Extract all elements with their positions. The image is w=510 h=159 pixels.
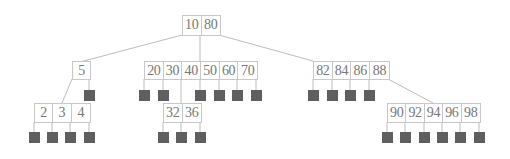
node-key: 86 xyxy=(351,62,370,79)
null-leaf xyxy=(419,132,430,143)
btree-node-2-4: 2 3 4 xyxy=(34,103,91,123)
null-leaf xyxy=(29,132,40,143)
node-key: 60 xyxy=(220,62,239,79)
null-leaf xyxy=(455,132,466,143)
btree-node-20-70: 20 30 40 50 60 70 xyxy=(144,61,258,80)
b-tree-diagram: 10 80 5 20 30 40 50 60 70 82 84 86 88 2 … xyxy=(0,0,510,159)
null-leaf xyxy=(232,90,243,101)
node-key: 20 xyxy=(145,62,164,79)
node-key: 2 xyxy=(35,104,53,122)
null-leaf xyxy=(65,132,76,143)
btree-node-32-36: 32 36 xyxy=(163,103,202,123)
node-key: 4 xyxy=(72,104,90,122)
null-leaf xyxy=(437,132,448,143)
null-leaf xyxy=(47,132,58,143)
node-key: 96 xyxy=(443,104,461,122)
node-key: 94 xyxy=(425,104,443,122)
node-key: 84 xyxy=(333,62,352,79)
node-key: 30 xyxy=(164,62,183,79)
null-leaf xyxy=(176,132,187,143)
null-leaf xyxy=(345,90,356,101)
node-key: 88 xyxy=(370,62,389,79)
node-key: 82 xyxy=(314,62,333,79)
null-leaf xyxy=(158,132,169,143)
null-leaf xyxy=(139,90,150,101)
null-leaf xyxy=(364,90,375,101)
node-key: 92 xyxy=(406,104,424,122)
node-key: 40 xyxy=(182,62,201,79)
node-key: 3 xyxy=(53,104,71,122)
null-leaf xyxy=(195,132,206,143)
btree-node-82-88: 82 84 86 88 xyxy=(313,61,390,80)
null-leaf xyxy=(195,90,206,101)
null-leaf xyxy=(84,90,95,101)
null-leaf xyxy=(84,132,95,143)
null-leaf xyxy=(214,90,225,101)
node-key: 50 xyxy=(201,62,220,79)
btree-node-root: 10 80 xyxy=(182,15,221,36)
node-key: 70 xyxy=(238,62,257,79)
null-leaf xyxy=(327,90,338,101)
btree-node-90-98: 90 92 94 96 98 xyxy=(387,103,481,123)
node-key: 98 xyxy=(462,104,480,122)
node-key: 10 xyxy=(183,16,202,35)
null-leaf xyxy=(382,132,393,143)
node-key: 32 xyxy=(164,104,183,122)
node-key: 80 xyxy=(202,16,221,35)
null-leaf xyxy=(308,90,319,101)
null-leaf xyxy=(158,90,169,101)
btree-node-5: 5 xyxy=(72,61,91,80)
null-leaf xyxy=(400,132,411,143)
node-key: 36 xyxy=(183,104,202,122)
null-leaf xyxy=(251,90,262,101)
node-key: 90 xyxy=(388,104,406,122)
node-key: 5 xyxy=(73,62,90,79)
null-leaf xyxy=(474,132,485,143)
